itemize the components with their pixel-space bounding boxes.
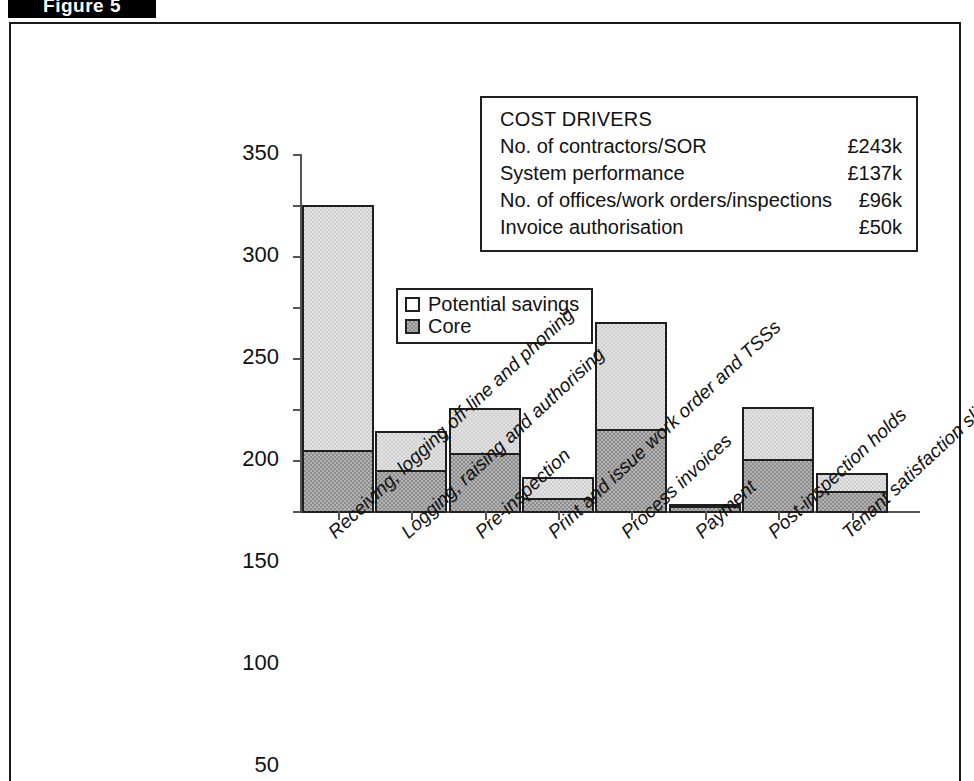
y-axis-tick: 100: [293, 409, 302, 411]
y-axis-tick: 300: [293, 205, 302, 207]
y-axis-tick: 150: [293, 358, 302, 360]
y-axis-tick: 350: [293, 154, 302, 156]
y-axis-tick: 250: [293, 256, 302, 258]
bar-segment-potential-savings: [595, 322, 667, 431]
y-axis-tick-label: 300: [242, 242, 279, 268]
cost-drivers-title: COST DRIVERS: [500, 108, 902, 131]
y-axis-tick-label: 50: [255, 752, 279, 778]
bar-segment-potential-savings: [302, 205, 374, 452]
y-axis-tick-label: 100: [242, 650, 279, 676]
plot-area: 050100150200250300350: [300, 154, 920, 511]
figure-tag: Figure 5: [8, 0, 156, 18]
y-axis-tick: 50: [293, 460, 302, 462]
y-axis-tick-label: 150: [242, 548, 279, 574]
y-axis-tick: 200: [293, 307, 302, 309]
y-axis-tick-label: 250: [242, 344, 279, 370]
y-axis-tick-label: 350: [242, 140, 279, 166]
figure-frame: COST DRIVERS No. of contractors/SOR £243…: [9, 22, 961, 781]
y-axis-tick-label: 200: [242, 446, 279, 472]
bar-segment-potential-savings: [742, 407, 814, 461]
y-axis-tick: 0: [293, 511, 302, 513]
bar: [302, 205, 374, 511]
